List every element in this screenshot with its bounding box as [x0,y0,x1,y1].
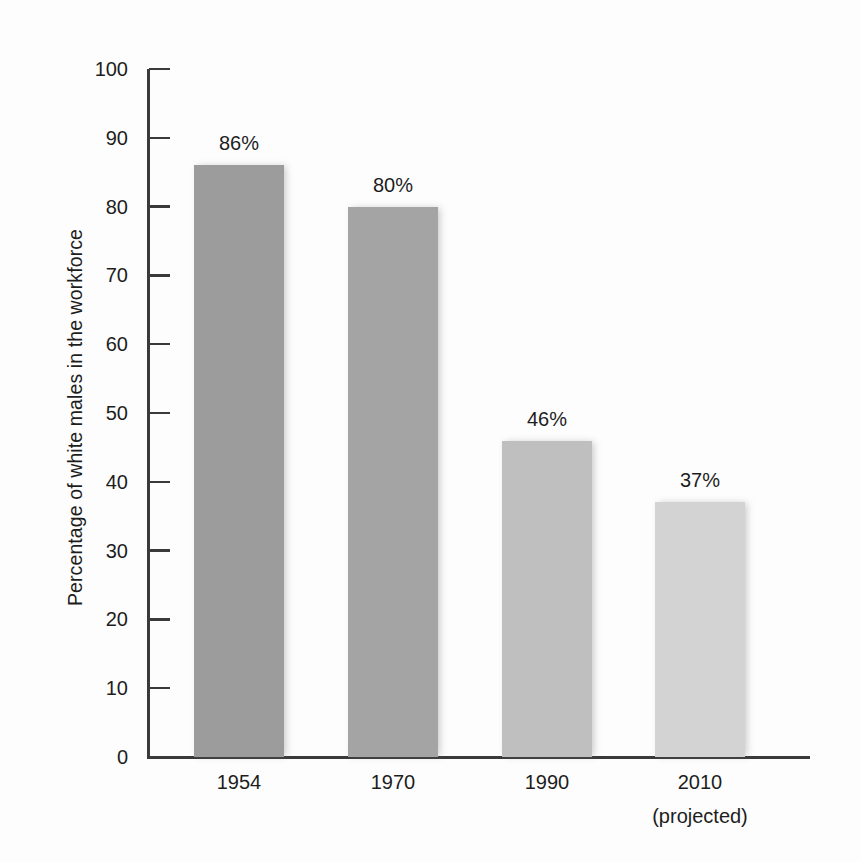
y-axis-tick-label: 20 [58,608,128,631]
x-axis-category-label: 2010 [620,771,780,794]
bar-value-label: 37% [680,469,720,492]
bar-value-label: 80% [373,174,413,197]
y-axis-tick-label: 40 [58,470,128,493]
plot-area: 86%80%46%37% [149,69,810,757]
y-axis-tick-label: 60 [58,333,128,356]
y-axis-tick-label: 100 [58,58,128,81]
bar-rect [502,441,592,757]
bar-chart-figure: Percentage of white males in the workfor… [0,0,861,862]
y-axis-tick-label: 50 [58,402,128,425]
y-axis-tick-label: 70 [58,264,128,287]
bar-rect [348,207,438,757]
bar: 37% [655,502,745,757]
bar-rect [655,502,745,757]
bar-value-label: 86% [219,132,259,155]
y-axis-tick-label: 90 [58,126,128,149]
y-axis-tick-label: 0 [58,746,128,769]
y-axis-tick-label: 10 [58,677,128,700]
x-axis-category-label: 1990 [467,771,627,794]
x-axis-category-label: 1954 [159,771,319,794]
bar-value-label: 46% [527,408,567,431]
x-axis-category-label: 1970 [313,771,473,794]
bar: 46% [502,441,592,757]
bar: 86% [194,165,284,757]
x-axis-category-sublabel: (projected) [620,805,780,828]
y-axis-tick-label: 30 [58,539,128,562]
bar: 80% [348,207,438,757]
bar-rect [194,165,284,757]
y-axis-tick-label: 80 [58,195,128,218]
